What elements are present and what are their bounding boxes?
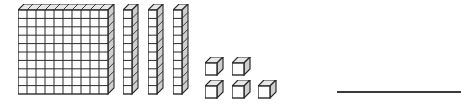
tens-rod-block <box>148 4 168 102</box>
hundreds-flat-block <box>18 4 122 102</box>
ones-cube-block <box>205 80 225 99</box>
ones-cube-block <box>258 80 278 99</box>
tens-rod-block <box>123 4 143 102</box>
base-ten-blocks-worksheet <box>0 0 470 106</box>
answer-blank-line[interactable] <box>337 91 461 93</box>
ones-cube-block <box>205 57 225 76</box>
ones-cube-block <box>232 57 252 76</box>
ones-cube-block <box>232 80 252 99</box>
tens-rod-block <box>173 4 193 102</box>
